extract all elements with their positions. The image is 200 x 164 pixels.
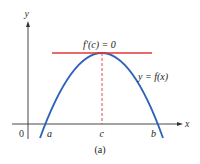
y-axis-arrow-icon — [26, 21, 30, 27]
point-a-label: a — [47, 128, 52, 139]
curve-label: y = f(x) — [137, 71, 169, 83]
tangent-label: f′(c) = 0 — [83, 39, 116, 51]
point-b-label: b — [151, 128, 156, 139]
curve-f — [40, 53, 163, 138]
x-axis-label: x — [184, 118, 190, 129]
x-axis-arrow-icon — [177, 122, 183, 126]
point-c-label: c — [100, 128, 105, 139]
rolle-theorem-figure: y x 0 f′(c) = 0 y = f(x) a c b (a) — [0, 0, 200, 164]
origin-label: 0 — [19, 128, 24, 139]
y-axis-label: y — [24, 8, 30, 19]
figure-caption: (a) — [94, 144, 105, 156]
